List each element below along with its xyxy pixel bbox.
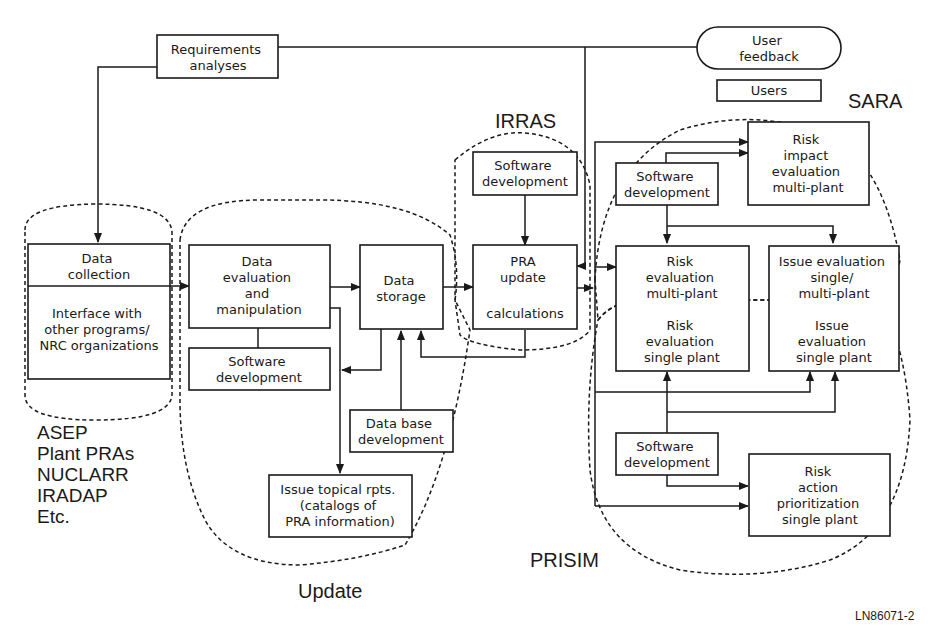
eval-to-issue-topical [330, 308, 340, 473]
figure-id: LN86071-2 [855, 609, 915, 623]
irras-region-label: IRRAS [495, 110, 556, 132]
sara-sw-to-issue-eval [667, 226, 833, 243]
spine-to-issue-single [595, 372, 810, 392]
interface-label: Interface with other programs/ NRC organ… [40, 306, 159, 353]
prisim-region-label: PRISIM [530, 549, 599, 571]
sw-dev-update-label: Software development [216, 354, 302, 385]
feedback-to-pra-update [577, 47, 585, 266]
data-sources-list: ASEP Plant PRAs NUCLARR IRADAP Etc. [37, 422, 139, 527]
users-label: Users [751, 83, 788, 98]
update-region-label: Update [298, 580, 363, 602]
sw-dev-irras-label: Software development [482, 158, 568, 189]
req-to-data-collection [98, 67, 157, 242]
storage-to-topical-feed [342, 329, 381, 370]
db-dev-label: Data base development [358, 416, 444, 447]
sw-dev-prisim-label: Software development [624, 439, 710, 470]
data-storage-label: Data storage [376, 273, 425, 304]
prisim-sw-to-risk-action [667, 475, 748, 486]
pra-program-flow-diagram: Requirements analyses User feedback User… [0, 0, 931, 626]
sara-region-label: SARA [848, 90, 903, 112]
sw-dev-sara-label: Software development [624, 169, 710, 200]
pra-to-storage [421, 330, 525, 357]
sara-sw-to-risk-impact [666, 153, 748, 163]
